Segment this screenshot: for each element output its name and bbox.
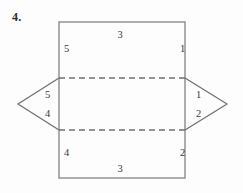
left-triangle (18, 78, 59, 130)
label-upper-left-5: 5 (64, 43, 69, 54)
figure-container: 4. 3 5 1 5 4 1 2 4 2 3 (0, 0, 243, 193)
right-triangle (185, 78, 227, 130)
label-lower-left-4: 4 (64, 147, 70, 158)
label-left-triangle-4: 4 (45, 108, 51, 119)
label-upper-right-1: 1 (180, 43, 185, 54)
main-rectangle (59, 22, 185, 178)
label-right-triangle-2: 2 (196, 108, 201, 119)
label-top-3: 3 (117, 29, 122, 40)
net-diagram-svg: 3 5 1 5 4 1 2 4 2 3 (0, 0, 243, 193)
label-bottom-3: 3 (117, 163, 122, 174)
label-right-triangle-1: 1 (196, 89, 201, 100)
label-lower-right-2: 2 (180, 147, 185, 158)
label-left-triangle-5: 5 (45, 89, 50, 100)
